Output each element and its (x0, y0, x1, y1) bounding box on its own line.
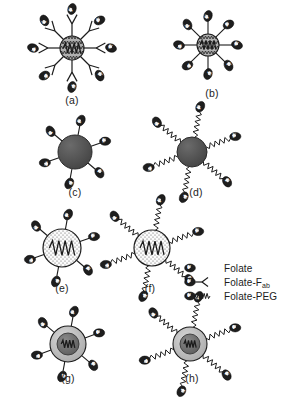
panel-label-d: (d) (189, 186, 202, 198)
svg-text:F: F (102, 137, 106, 143)
svg-text:F: F (187, 278, 191, 284)
folate-ligand-icon: F (143, 163, 154, 172)
folate-ligand-icon: F (229, 324, 240, 333)
svg-text:F: F (29, 257, 33, 263)
folate-ligand-icon: F (88, 232, 99, 241)
folate-oval-icon: F (185, 264, 196, 272)
svg-text:F: F (232, 132, 236, 138)
legend-label-folate: Folate (224, 263, 253, 274)
svg-text:F: F (195, 227, 199, 233)
nanoparticle-core (58, 135, 92, 169)
svg-text:F: F (187, 264, 191, 270)
nanoparticle-core (43, 229, 81, 267)
figure-canvas: FFFFFFFFFFFFFFFFFFFFFFFFFFFFFFFFFFFFFFFF… (0, 0, 299, 399)
figure-background (0, 0, 299, 399)
nanoparticle-core (197, 34, 219, 56)
folate-ligand-icon: F (93, 329, 104, 338)
nanoparticle-schematic-svg: FFFFFFFFFFFFFFFFFFFFFFFFFFFFFFFFFFFFFFFF… (0, 0, 299, 399)
inner-core (180, 334, 200, 354)
folate-ligand-icon: F (100, 260, 111, 269)
panel-label-c: (c) (69, 186, 82, 198)
svg-text:F: F (91, 233, 95, 239)
folate-ligand-icon: F (99, 137, 110, 146)
panel-label-e: (e) (55, 282, 68, 294)
folate-ligand-icon: F (139, 356, 150, 365)
panel-label-b: (b) (205, 87, 218, 99)
svg-text:F: F (144, 358, 148, 364)
inner-core (57, 333, 79, 355)
nanoparticle-core (134, 230, 170, 266)
legend-label-folate_peg: Folate-PEG (224, 291, 277, 302)
panel-label-g: (g) (61, 372, 74, 384)
svg-text:F: F (96, 329, 100, 335)
svg-text:F: F (105, 262, 109, 268)
folate-ligand-icon: F (24, 255, 35, 264)
panel-label-h: (h) (185, 372, 198, 384)
nanoparticle-core (177, 137, 207, 167)
panel-label-f: (f) (145, 282, 156, 294)
svg-text:F: F (147, 165, 151, 171)
nanoparticle-core (60, 36, 84, 60)
folate-ligand-icon: F (192, 227, 203, 236)
folate-ligand-icon: F (230, 132, 241, 141)
folate-ligand-icon: F (39, 159, 50, 168)
svg-text:F: F (187, 292, 191, 298)
svg-text:F: F (44, 161, 48, 167)
nanoparticle-core (173, 327, 207, 361)
nanoparticle-core (50, 326, 86, 362)
panel-label-a: (a) (65, 94, 78, 106)
folate-ligand-icon: F (31, 351, 42, 360)
svg-text:F: F (232, 324, 236, 330)
svg-text:F: F (36, 353, 40, 359)
